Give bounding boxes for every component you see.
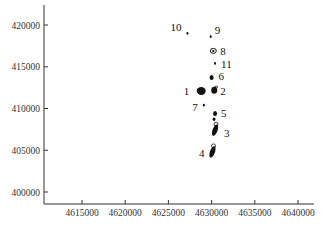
data-point-2: 2 (211, 85, 226, 97)
data-point-11: 11 (214, 58, 232, 70)
contour-blob (211, 87, 217, 94)
point-label: 2 (220, 85, 226, 97)
data-point-1: 1 (184, 85, 206, 97)
point-label: 11 (221, 58, 232, 70)
contour-blob (210, 75, 214, 80)
point-label: 7 (192, 101, 198, 113)
x-tick-label: 4630000 (195, 208, 229, 218)
point-label: 5 (221, 107, 227, 119)
data-point-9: 9 (210, 24, 221, 38)
contour-blob (212, 50, 214, 52)
contour-blob (213, 117, 216, 121)
x-tick-label: 4635000 (238, 208, 272, 218)
x-tick-label: 4620000 (109, 208, 143, 218)
point-label: 6 (219, 70, 225, 82)
data-point-4: 4 (199, 144, 217, 160)
y-tick-label: 405000 (12, 146, 41, 156)
point-label: 3 (224, 127, 230, 139)
data-point-8: 8 (210, 45, 226, 57)
contour-scatter-chart: 400000405000410000415000420000 461500046… (0, 0, 321, 229)
contour-blob (186, 32, 188, 35)
data-point-6: 6 (210, 70, 225, 82)
y-tick-label: 410000 (12, 104, 41, 114)
data-point-7: 7 (192, 101, 205, 113)
data-points: 1234567891011 (170, 21, 231, 160)
data-point-10: 10 (170, 21, 188, 35)
y-tick-label: 420000 (12, 21, 41, 31)
data-point-5: 5 (213, 107, 227, 119)
point-label: 1 (184, 85, 190, 97)
point-label: 8 (220, 45, 226, 57)
data-point-3: 3 (211, 117, 230, 138)
x-tick-label: 4615000 (65, 208, 99, 218)
contour-blob (210, 35, 212, 38)
contour-blob (203, 104, 205, 107)
contour-blob (213, 111, 217, 116)
y-tick-label: 415000 (12, 62, 41, 72)
point-label: 9 (215, 24, 221, 36)
x-tick-label: 4625000 (152, 208, 186, 218)
x-ticks: 4615000462000046250004630000463500046400… (65, 200, 315, 218)
axes (44, 5, 314, 204)
x-tick-label: 4640000 (281, 208, 315, 218)
contour-blob (214, 62, 216, 65)
contour-blob (197, 87, 206, 95)
point-label: 4 (199, 147, 205, 159)
y-ticks: 400000405000410000415000420000 (12, 21, 49, 198)
point-label: 10 (170, 21, 182, 33)
y-tick-label: 400000 (12, 188, 41, 198)
